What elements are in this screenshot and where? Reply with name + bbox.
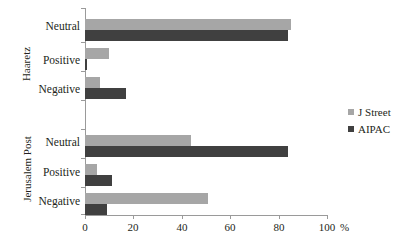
category-label-jpost-neutral: Neutral bbox=[8, 136, 80, 148]
bar-jpost-negative-aipac bbox=[85, 204, 107, 215]
legend-label-jstreet: J Street bbox=[358, 106, 391, 118]
x-tick-label-20: 20 bbox=[115, 221, 151, 233]
bar-jpost-neutral-jstreet bbox=[85, 135, 191, 146]
x-tick-40 bbox=[182, 215, 183, 219]
x-axis-unit-label: % bbox=[340, 221, 349, 233]
x-tick-label-40: 40 bbox=[164, 221, 200, 233]
x-tick-60 bbox=[230, 215, 231, 219]
x-tick-20 bbox=[133, 215, 134, 219]
bar-jpost-negative-jstreet bbox=[85, 193, 208, 204]
x-tick-label-60: 60 bbox=[212, 221, 248, 233]
bar-haaretz-negative-aipac bbox=[85, 88, 126, 99]
bar-haaretz-neutral-aipac bbox=[85, 30, 288, 41]
category-label-jpost-positive: Positive bbox=[8, 166, 80, 178]
x-tick-100 bbox=[327, 215, 328, 219]
bar-chart: Haaretz Jerusalem Post Neutral Positive … bbox=[0, 0, 420, 248]
category-label-haaretz-positive: Positive bbox=[8, 54, 80, 66]
x-tick-label-80: 80 bbox=[261, 221, 297, 233]
category-label-haaretz-neutral: Neutral bbox=[8, 20, 80, 32]
x-tick-label-0: 0 bbox=[67, 221, 103, 233]
legend-swatch-icon-aipac bbox=[348, 126, 354, 132]
bar-haaretz-negative-jstreet bbox=[85, 77, 100, 88]
bar-jpost-positive-jstreet bbox=[85, 164, 97, 175]
x-tick-0 bbox=[85, 215, 86, 219]
legend-swatch-icon-jstreet bbox=[348, 109, 354, 115]
category-label-haaretz-negative: Negative bbox=[8, 83, 80, 95]
legend: J Street AIPAC bbox=[348, 103, 391, 137]
plot-area bbox=[85, 8, 327, 215]
bar-haaretz-neutral-jstreet bbox=[85, 19, 291, 30]
bar-jpost-neutral-aipac bbox=[85, 146, 288, 157]
legend-item-aipac[interactable]: AIPAC bbox=[348, 120, 391, 137]
bar-jpost-positive-aipac bbox=[85, 175, 112, 186]
bar-haaretz-positive-aipac bbox=[85, 59, 87, 70]
legend-item-jstreet[interactable]: J Street bbox=[348, 103, 391, 120]
x-tick-80 bbox=[279, 215, 280, 219]
legend-label-aipac: AIPAC bbox=[358, 123, 390, 135]
x-axis-line bbox=[85, 215, 328, 216]
bar-haaretz-positive-jstreet bbox=[85, 48, 109, 59]
category-label-jpost-negative: Negative bbox=[8, 195, 80, 207]
